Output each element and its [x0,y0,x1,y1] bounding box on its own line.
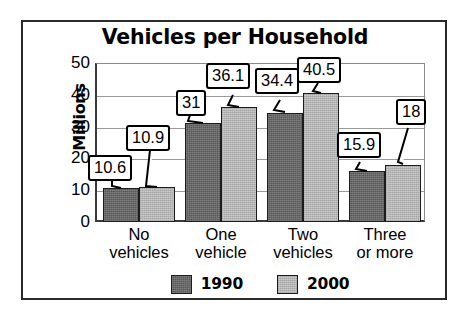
data-label-2000-no-vehicles: 10.9 [126,125,170,151]
data-label-1990-no-vehicles: 10.6 [88,155,132,181]
data-label-2000-one-vehicle: 36.1 [206,63,250,89]
data-label-2000-three-or-more: 18 [396,99,426,125]
data-label-2000-two-vehicles: 40.5 [297,57,341,83]
data-label-1990-one-vehicle: 31 [176,90,206,116]
chart-figure: Vehicles per Household Millions 50 40 30… [0,0,468,319]
callout-leader-lines [0,0,468,319]
data-label-1990-two-vehicles: 34.4 [255,68,299,94]
data-label-1990-three-or-more: 15.9 [337,132,381,158]
